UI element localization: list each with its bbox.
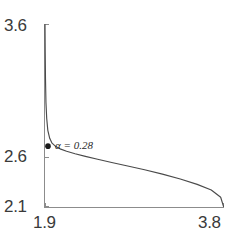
plot-area bbox=[0, 0, 241, 239]
data-curve bbox=[45, 25, 224, 207]
corner-point-marker bbox=[45, 143, 51, 149]
y-axis-max-label: 3.6 bbox=[4, 17, 27, 34]
x-axis-min-label: 1.9 bbox=[33, 214, 56, 231]
alpha-annotation-label: α = 0.28 bbox=[55, 140, 93, 151]
y-axis-mid-label: 2.6 bbox=[4, 148, 27, 165]
chart-figure: 3.6 2.6 2.1 1.9 3.8 α = 0.28 bbox=[0, 0, 241, 239]
y-axis-min-label: 2.1 bbox=[4, 198, 27, 215]
x-axis-max-label: 3.8 bbox=[198, 214, 221, 231]
